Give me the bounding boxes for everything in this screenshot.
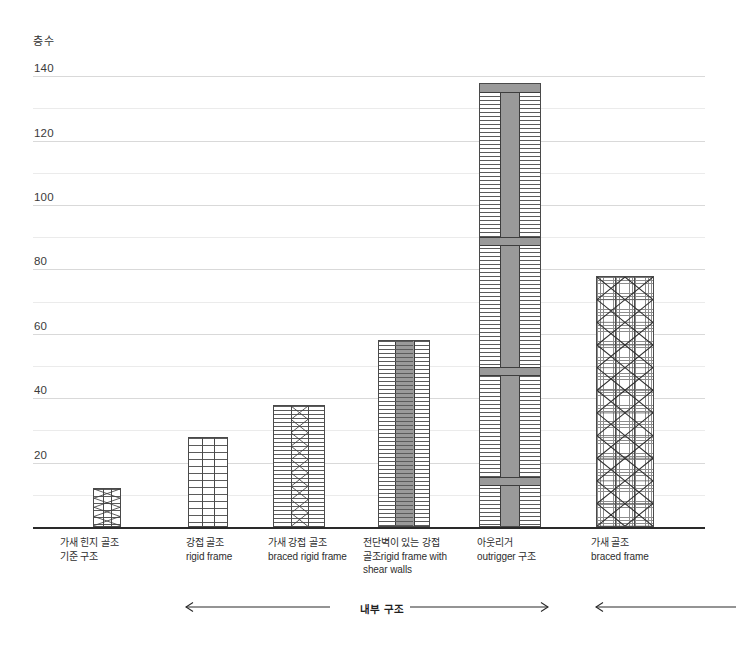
- gridline-major: [33, 76, 705, 77]
- outrigger-belt-truss: [480, 367, 540, 376]
- y-tick-label: 60: [33, 320, 47, 332]
- outrigger-belt-truss: [480, 477, 540, 486]
- y-tick-label: 120: [33, 127, 54, 139]
- y-axis-title: 층수: [33, 32, 54, 48]
- outrigger-core: [500, 84, 520, 527]
- gridline-minor: [33, 108, 705, 109]
- x-category-label-6: 가새 골조 braced frame: [591, 536, 649, 563]
- bar-shear-wall-core[interactable]: [378, 340, 430, 527]
- bar-braced-rigid-frame-core[interactable]: [273, 405, 325, 527]
- plot-area: 14012010080604020: [33, 60, 705, 527]
- diagonal-brace-pattern: [597, 277, 653, 526]
- x-category-label-2: 강접 골조 rigid frame: [186, 536, 232, 563]
- gridline-major: [33, 205, 705, 206]
- x-category-label-3: 가새 강접 골조 braced rigid frame: [268, 536, 347, 563]
- column-lines: [189, 438, 227, 526]
- y-tick-label: 40: [33, 384, 47, 396]
- x-category-label-5: 아웃리거 outrigger 구조: [477, 536, 536, 563]
- inner-structure-label: 내부 구조: [360, 601, 404, 616]
- x-brace-pattern: [94, 489, 120, 526]
- structure-scope-annotation: 내부 구조: [0, 595, 743, 625]
- y-tick-label: 100: [33, 191, 54, 203]
- braced-core-x-pattern: [291, 406, 308, 526]
- gridline-minor: [33, 173, 705, 174]
- gridline-major: [33, 141, 705, 142]
- x-category-label-4: 전단벽이 있는 강접 골조rigid frame with shear wall…: [363, 536, 447, 577]
- floors-by-structural-system-chart: 층수 14012010080604020 가새 힌지 골조 기준 구조강접 골조…: [0, 0, 743, 646]
- bar-outrigger-core-belts[interactable]: [479, 83, 541, 528]
- y-tick-label: 140: [33, 62, 54, 74]
- x-axis-baseline: [33, 527, 705, 529]
- gridline-major: [33, 269, 705, 270]
- gridline-minor: [33, 237, 705, 238]
- core-floor-hatch: [395, 341, 413, 526]
- outrigger-cap-truss: [480, 84, 540, 93]
- bar-rigid-frame-grid[interactable]: [188, 437, 228, 527]
- outrigger-belt-truss: [480, 237, 540, 246]
- y-tick-label: 80: [33, 255, 47, 267]
- bar-braced-hinged-frame[interactable]: [93, 488, 121, 527]
- bar-braced-frame-diagonals[interactable]: [596, 276, 654, 527]
- x-category-label-1: 가새 힌지 골조 기준 구조: [60, 536, 119, 563]
- y-tick-label: 20: [33, 449, 47, 461]
